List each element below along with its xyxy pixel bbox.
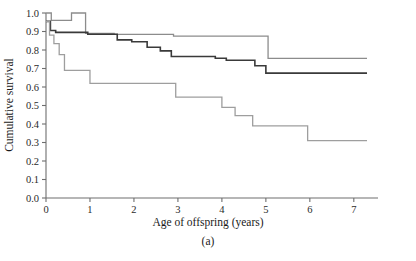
- y-axis-title: Cumulative survival: [3, 58, 15, 152]
- y-tick-label: 0.2: [26, 156, 39, 167]
- y-tick-label: 1.0: [26, 8, 39, 19]
- x-axis-tick-marks: [46, 198, 354, 202]
- chart-canvas: 0.00.10.20.30.40.50.60.70.80.91.0 012345…: [0, 0, 416, 261]
- x-tick-label: 6: [307, 204, 312, 215]
- y-axis-tick-marks: [42, 13, 46, 198]
- x-tick-label: 7: [351, 204, 356, 215]
- x-tick-label: 1: [87, 204, 92, 215]
- x-tick-label: 3: [175, 204, 180, 215]
- x-axis-title: Age of offspring (years): [152, 216, 263, 229]
- y-tick-label: 0.5: [26, 100, 39, 111]
- y-tick-label: 0.8: [26, 45, 39, 56]
- y-tick-label: 0.0: [26, 193, 39, 204]
- y-axis-tick-labels: 0.00.10.20.30.40.50.60.70.80.91.0: [26, 8, 40, 204]
- y-tick-label: 0.6: [26, 82, 39, 93]
- y-tick-label: 0.3: [26, 137, 39, 148]
- km-curve-middle-curve: [46, 21, 367, 73]
- x-tick-label: 2: [131, 204, 136, 215]
- y-tick-label: 0.7: [26, 63, 39, 74]
- survival-curves: [46, 13, 367, 141]
- km-curve-upper-curve: [46, 13, 367, 58]
- y-tick-label: 0.4: [26, 119, 40, 130]
- y-tick-label: 0.9: [26, 26, 39, 37]
- x-tick-label: 0: [43, 204, 48, 215]
- x-tick-label: 4: [219, 204, 225, 215]
- survival-curve-figure: 0.00.10.20.30.40.50.60.70.80.91.0 012345…: [0, 0, 416, 261]
- x-axis-tick-labels: 01234567: [43, 204, 356, 215]
- km-curve-lower-curve: [46, 21, 367, 140]
- panel-label: (a): [202, 235, 215, 248]
- y-tick-label: 0.1: [26, 174, 39, 185]
- x-tick-label: 5: [263, 204, 268, 215]
